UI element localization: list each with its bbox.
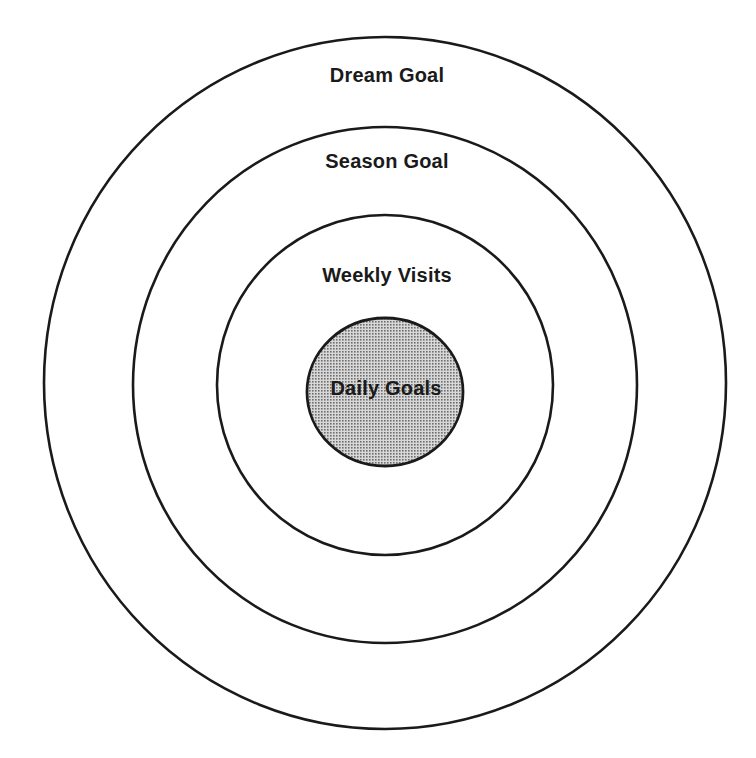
- label-dream-goal: Dream Goal: [330, 64, 444, 87]
- label-season-goal: Season Goal: [325, 150, 448, 173]
- label-daily-goals: Daily Goals: [330, 377, 441, 400]
- label-weekly-visits: Weekly Visits: [322, 264, 452, 287]
